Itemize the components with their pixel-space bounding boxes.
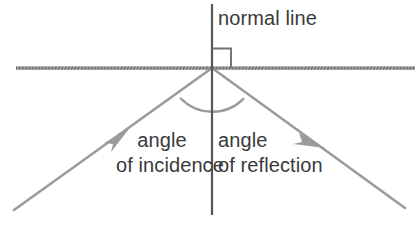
angle-of-incidence-label: angle of incidence bbox=[116, 128, 208, 178]
reflection-diagram: normal line angle of incidence angle of … bbox=[0, 0, 418, 238]
angle-of-incidence-label-line1: angle bbox=[116, 128, 208, 153]
right-angle-marker-icon bbox=[212, 49, 231, 69]
angle-of-incidence-label-line2: of incidence bbox=[116, 153, 208, 178]
normal-line-label: normal line bbox=[218, 6, 317, 31]
angle-of-reflection-label-line1: angle bbox=[218, 128, 398, 153]
reflecting-surface-line bbox=[16, 66, 415, 69]
diagram-canvas bbox=[0, 0, 418, 238]
angle-of-reflection-label-line2: of reflection bbox=[218, 153, 398, 178]
angle-of-reflection-label: angle of reflection bbox=[218, 128, 398, 178]
